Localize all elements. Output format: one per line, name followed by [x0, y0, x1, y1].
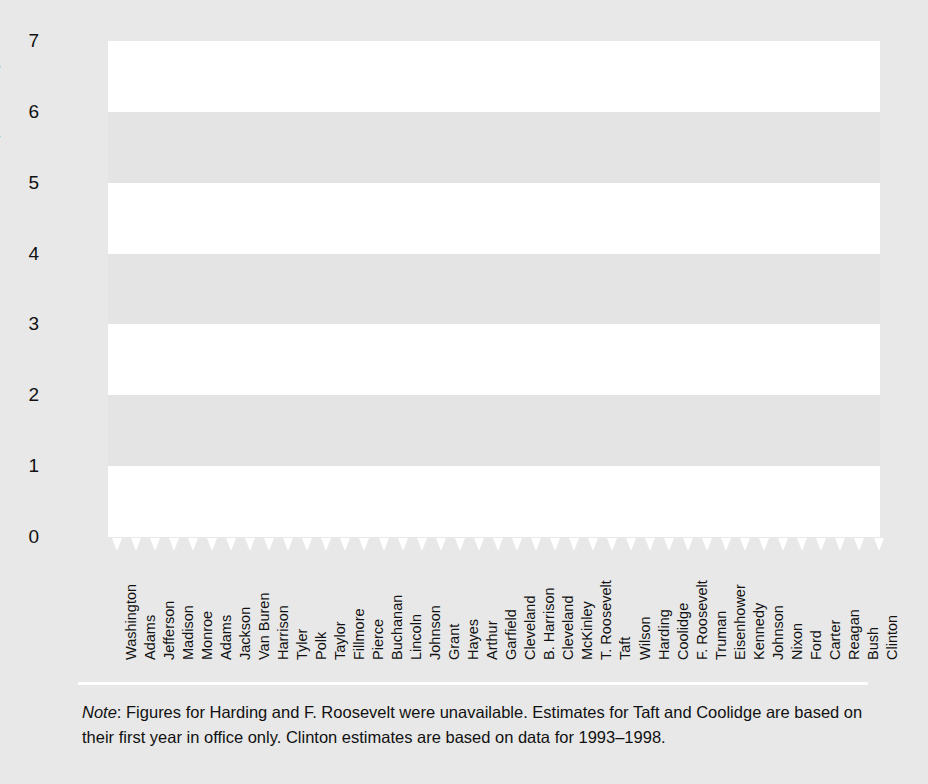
x-tick: [759, 538, 769, 551]
x-axis-label: Taylor: [332, 621, 348, 660]
x-tick: [645, 538, 655, 551]
x-axis-label: Garfield: [503, 609, 519, 660]
background-band: [108, 395, 880, 466]
x-axis-label: Nixon: [789, 623, 805, 660]
x-axis-label: B. Harrison: [541, 587, 557, 660]
x-tick: [493, 538, 503, 551]
x-tick: [283, 538, 293, 551]
x-tick: [874, 538, 884, 551]
x-tick: [417, 538, 427, 551]
x-axis-label: Madison: [180, 605, 196, 660]
x-axis-label: McKinley: [579, 601, 595, 660]
x-axis-label: Jackson: [237, 607, 253, 660]
x-tick: [835, 538, 845, 551]
x-axis-label: Harrison: [275, 605, 291, 660]
x-tick: [854, 538, 864, 551]
y-tick-label: 6: [9, 101, 39, 123]
x-axis-label: Polk: [313, 632, 329, 660]
background-band: [108, 41, 880, 112]
x-tick: [131, 538, 141, 551]
y-axis-title: Speeches per Year (hundreds): [0, 0, 2, 150]
x-axis-label: Wilson: [637, 616, 653, 660]
y-tick-label: 3: [9, 313, 39, 335]
y-tick-label: 0: [9, 526, 39, 548]
x-tick: [702, 538, 712, 551]
x-axis-label: Pierce: [370, 619, 386, 660]
x-tick: [664, 538, 674, 551]
x-tick: [379, 538, 389, 551]
x-tick: [721, 538, 731, 551]
x-axis-label: Johnson: [427, 605, 443, 660]
x-axis-label: Washington: [123, 584, 139, 660]
x-tick: [550, 538, 560, 551]
x-axis-label: Carter: [827, 620, 843, 660]
background-band: [108, 254, 880, 325]
chart-note: Note: Figures for Harding and F. Rooseve…: [82, 700, 882, 750]
x-axis-label: T. Roosevelt: [598, 580, 614, 660]
x-tick: [569, 538, 579, 551]
chart-figure: Speeches per Year (hundreds) 01234567 Wa…: [0, 0, 928, 784]
note-text: : Figures for Harding and F. Roosevelt w…: [82, 703, 862, 746]
x-tick: [207, 538, 217, 551]
x-axis-label: Eisenhower: [732, 584, 748, 660]
x-axis-label: Reagan: [846, 609, 862, 660]
x-axis-label: Fillmore: [351, 608, 367, 660]
x-tick: [150, 538, 160, 551]
x-tick: [683, 538, 693, 551]
x-tick: [626, 538, 636, 551]
x-tick: [112, 538, 122, 551]
background-band: [108, 183, 880, 254]
x-axis-label: Harding: [656, 609, 672, 660]
x-axis-label: Cleveland: [522, 596, 538, 661]
x-axis-label: Bush: [865, 627, 881, 660]
x-axis-label: Hayes: [465, 619, 481, 660]
background-band: [108, 466, 880, 537]
x-tick: [607, 538, 617, 551]
x-axis-label: Clinton: [884, 615, 900, 660]
x-axis-label: Kennedy: [751, 603, 767, 660]
x-axis-label: F. Roosevelt: [694, 580, 710, 660]
x-axis-label: Adams: [218, 615, 234, 660]
x-axis-label: Taft: [617, 637, 633, 660]
x-tick: [264, 538, 274, 551]
background-band: [108, 112, 880, 183]
x-axis-label: Monroe: [199, 611, 215, 660]
x-tick: [588, 538, 598, 551]
x-axis-label: Truman: [713, 611, 729, 660]
x-tick: [531, 538, 541, 551]
background-band: [108, 324, 880, 395]
x-axis-label: Adams: [142, 615, 158, 660]
note-divider: [78, 682, 868, 685]
y-tick-label: 7: [9, 30, 39, 52]
x-tick: [455, 538, 465, 551]
x-axis-label: Grant: [446, 624, 462, 660]
x-axis-label: Buchanan: [389, 595, 405, 660]
x-axis-label: Ford: [808, 630, 824, 660]
x-tick: [797, 538, 807, 551]
x-tick: [340, 538, 350, 551]
x-tick: [778, 538, 788, 551]
x-tick: [474, 538, 484, 551]
x-tick: [740, 538, 750, 551]
x-axis-label: Cleveland: [560, 596, 576, 661]
x-axis-label: Coolidge: [675, 603, 691, 660]
x-tick: [321, 538, 331, 551]
x-tick: [512, 538, 522, 551]
x-tick: [226, 538, 236, 551]
x-tick: [398, 538, 408, 551]
x-tick: [359, 538, 369, 551]
y-tick-label: 5: [9, 172, 39, 194]
y-tick-label: 4: [9, 243, 39, 265]
x-axis-label: Tyler: [294, 629, 310, 660]
x-axis-ticks: [108, 538, 880, 552]
note-prefix: Note: [82, 703, 117, 721]
y-tick-label: 1: [9, 455, 39, 477]
x-tick: [302, 538, 312, 551]
x-tick: [816, 538, 826, 551]
x-axis-label: Van Buren: [256, 593, 272, 660]
y-tick-label: 2: [9, 384, 39, 406]
x-axis-label: Lincoln: [408, 614, 424, 660]
x-tick: [169, 538, 179, 551]
x-axis-label: Jefferson: [161, 601, 177, 660]
x-tick: [436, 538, 446, 551]
